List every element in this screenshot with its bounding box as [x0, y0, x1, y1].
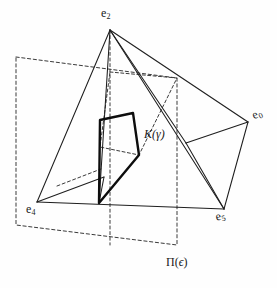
vertex-label-e2: e2 — [101, 7, 111, 21]
edge-e2-e0 — [110, 30, 248, 122]
vertex-label-e4: e4 — [26, 203, 36, 217]
edge-inner-junction-e5 — [186, 143, 224, 209]
plane-label-suffix: ) — [184, 255, 188, 269]
vertex-label-e2-subscript: 2 — [106, 12, 110, 21]
region-label-k-gamma: K(γ) — [144, 128, 165, 140]
simplex-edges — [37, 30, 248, 209]
inner-dashed-quadrilateral — [100, 72, 177, 155]
region-k-gamma-outline — [99, 113, 139, 203]
figure-canvas: e2 e0 e4 e5 K(γ) Π(ϵ) — [0, 0, 277, 288]
plane-label-pi-epsilon: Π(ϵ) — [166, 256, 188, 268]
edge-e4-e5 — [37, 202, 224, 209]
projection-plane-outline — [16, 57, 177, 245]
auxiliary-dashed-segment — [57, 169, 101, 186]
outer-dashed-quadrilateral — [16, 57, 177, 245]
edge-e2-e5 — [110, 30, 224, 209]
inner-projection-outline — [100, 72, 177, 155]
vertex-label-e4-subscript: 4 — [31, 208, 35, 217]
simplex-diagram — [0, 0, 277, 288]
edge-e0-e5 — [224, 122, 248, 209]
edge-e0-inner-junction — [186, 122, 248, 143]
plane-label-prefix: Π( — [166, 255, 179, 269]
